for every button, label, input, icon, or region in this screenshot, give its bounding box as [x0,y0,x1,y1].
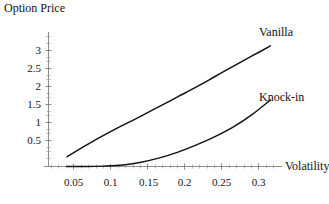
y-tick-label-2-5: 2.5 [10,62,41,74]
x-tick-label-0-05: 0.05 [53,176,94,188]
y-tick-label-1-5: 1.5 [10,98,41,110]
x-tick-label-0-2: 0.2 [166,176,203,188]
series-line-vanilla [67,46,271,157]
series-label-vanilla: Vanilla [259,26,293,39]
x-tick-label-0-25: 0.25 [201,176,242,188]
series-label-knock-in: Knock-in [259,91,304,104]
x-tick-label-0-1: 0.1 [92,176,129,188]
y-tick-label-0-5: 0.5 [10,134,41,146]
y-tick-label-1: 1 [10,116,41,128]
y-tick-label-3: 3 [10,44,41,56]
series-line-knock-in [67,100,271,167]
x-tick-label-0-15: 0.15 [128,176,169,188]
x-tick-label-0-3: 0.3 [240,176,277,188]
y-tick-label-2: 2 [10,80,41,92]
x-axis-title: Volatility [285,160,329,173]
